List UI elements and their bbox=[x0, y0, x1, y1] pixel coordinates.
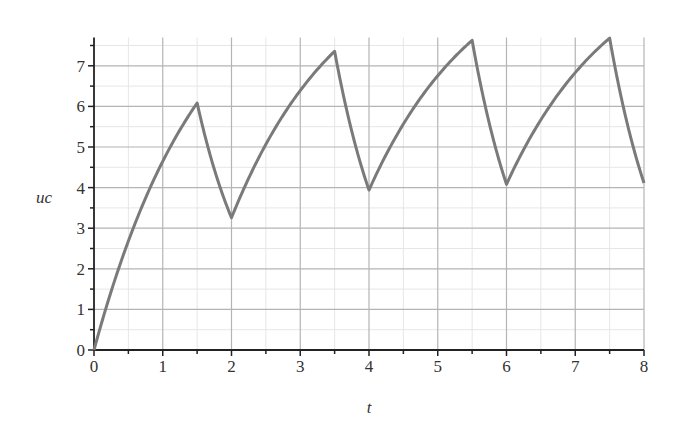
y-tick-label: 0 bbox=[77, 341, 86, 360]
y-tick-label: 3 bbox=[77, 219, 86, 238]
y-tick-label: 4 bbox=[77, 179, 86, 198]
x-axis-label: t bbox=[367, 398, 373, 417]
y-tick-label: 5 bbox=[77, 138, 86, 157]
y-tick-label: 2 bbox=[77, 260, 86, 279]
x-tick-label: 8 bbox=[640, 357, 649, 376]
x-tick-label: 6 bbox=[502, 357, 511, 376]
x-tick-label: 4 bbox=[365, 357, 374, 376]
x-tick-label: 0 bbox=[90, 357, 99, 376]
x-tick-label: 2 bbox=[227, 357, 236, 376]
x-tick-label: 1 bbox=[159, 357, 168, 376]
y-tick-labels: 01234567 bbox=[77, 57, 86, 360]
x-tick-labels: 012345678 bbox=[90, 357, 649, 376]
major-gridlines bbox=[94, 37, 644, 350]
chart: 012345678 01234567 t uc bbox=[0, 0, 684, 427]
y-axis-label: uc bbox=[36, 188, 53, 207]
y-tick-label: 7 bbox=[77, 57, 86, 76]
y-tick-label: 1 bbox=[77, 300, 86, 319]
x-tick-label: 3 bbox=[296, 357, 305, 376]
x-tick-label: 5 bbox=[434, 357, 443, 376]
x-tick-label: 7 bbox=[571, 357, 580, 376]
y-tick-label: 6 bbox=[77, 97, 86, 116]
